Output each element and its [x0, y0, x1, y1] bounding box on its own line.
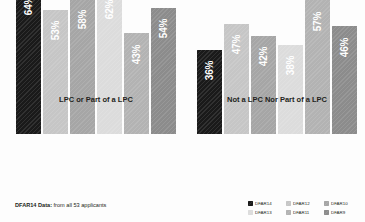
bar-chart: 64% 53% 58% 62%	[0, 0, 365, 222]
bar-value-text: 46%	[339, 38, 350, 57]
bar-dfar14[interactable]: 64%	[16, 0, 41, 134]
footnote: DFAR14 Data: from all 53 applicants	[15, 202, 106, 208]
legend-item[interactable]: DFAR13	[248, 208, 284, 216]
bar-value-label: 58%	[70, 2, 95, 36]
bar-dfar12[interactable]: 47%	[224, 24, 249, 134]
plot-area: 64% 53% 58% 62%	[0, 0, 365, 180]
bar-value-text: 42%	[258, 47, 269, 66]
legend-swatch-dfar11-icon	[286, 210, 291, 215]
bar-group-bars: 36% 47% 42% 38%	[197, 0, 357, 134]
legend-label: DFAR9	[331, 210, 345, 215]
bar-group-bars: 64% 53% 58% 62%	[16, 0, 176, 134]
bar-value-label: 46%	[332, 30, 357, 64]
bar-value-text: 58%	[77, 9, 88, 28]
bar-group-lpc: 64% 53% 58% 62%	[16, 0, 176, 134]
footnote-rest: from all 53 applicants	[52, 202, 106, 208]
bar-dfar10[interactable]: 42%	[251, 36, 276, 134]
bar-dfar10[interactable]: 58%	[70, 0, 95, 134]
bar-dfar11[interactable]: 43%	[124, 33, 149, 134]
bar-value-text: 47%	[231, 35, 242, 54]
legend-swatch-dfar9-icon	[324, 210, 329, 215]
bar-dfar13[interactable]: 38%	[278, 45, 303, 134]
bar-value-label: 42%	[251, 40, 276, 74]
group-axis-label: Not a LPC Nor Part of a LPC	[197, 95, 357, 104]
legend-label: DFAR13	[255, 210, 272, 215]
bar-value-text: 64%	[23, 0, 34, 15]
legend-item[interactable]: DFAR12	[286, 199, 322, 207]
bar-value-label: 64%	[16, 0, 41, 22]
legend-item[interactable]: DFAR11	[286, 208, 322, 216]
bar-value-label: 54%	[151, 12, 176, 46]
bar-dfar9[interactable]: 54%	[151, 8, 176, 135]
legend-swatch-dfar13-icon	[248, 210, 253, 215]
bar-value-label: 57%	[305, 4, 330, 38]
bar-value-label: 38%	[278, 49, 303, 83]
bar-value-text: 38%	[285, 56, 296, 75]
legend: DFAR14 DFAR12 DFAR10 DFAR13 DFAR11 DFAR9	[248, 199, 360, 216]
bar-dfar9[interactable]: 46%	[332, 26, 357, 134]
legend-label: DFAR11	[293, 210, 309, 215]
bar-value-label: 36%	[197, 54, 222, 88]
legend-label: DFAR10	[331, 201, 348, 206]
bar-dfar11[interactable]: 57%	[305, 0, 330, 134]
bar-value-label: 47%	[224, 28, 249, 62]
bar-value-text: 57%	[312, 12, 323, 31]
bar-value-text: 36%	[204, 61, 215, 80]
legend-swatch-dfar12-icon	[286, 201, 291, 206]
legend-item[interactable]: DFAR14	[248, 199, 284, 207]
bar-value-text: 54%	[158, 19, 169, 38]
legend-item[interactable]: DFAR10	[324, 199, 360, 207]
bar-value-text: 43%	[131, 45, 142, 64]
legend-swatch-dfar14-icon	[248, 201, 253, 206]
bar-value-text: 62%	[104, 0, 115, 19]
legend-label: DFAR14	[255, 201, 272, 206]
bar-value-label: 62%	[97, 0, 122, 27]
legend-swatch-dfar10-icon	[324, 201, 329, 206]
bar-group-not-lpc: 36% 47% 42% 38%	[197, 0, 357, 134]
bar-dfar14[interactable]: 36%	[197, 50, 222, 134]
bar-value-label: 53%	[43, 14, 68, 48]
legend-label: DFAR12	[293, 201, 310, 206]
group-axis-label: LPC or Part of a LPC	[16, 95, 176, 104]
bar-value-text: 53%	[50, 21, 61, 40]
bar-dfar13[interactable]: 62%	[97, 0, 122, 134]
legend-item[interactable]: DFAR9	[324, 208, 360, 216]
bar-value-label: 43%	[124, 37, 149, 71]
bar-dfar12[interactable]: 53%	[43, 10, 68, 134]
footnote-strong: DFAR14 Data:	[15, 202, 52, 208]
